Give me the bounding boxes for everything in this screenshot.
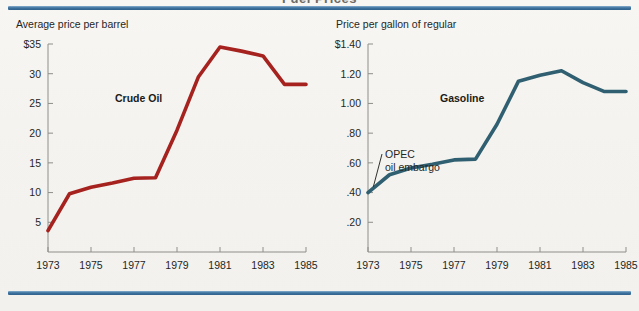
crude-oil-ytick-label: 25 — [29, 97, 41, 109]
crude-oil-ytick-label: 30 — [29, 68, 41, 80]
opec-annotation-line1: OPEC — [385, 148, 415, 160]
crude-oil-axis-title: Average price per barrel — [16, 18, 128, 30]
crude-oil-ytick-label: $35 — [23, 38, 41, 50]
opec-annotation-line2: oil embargo — [385, 161, 440, 173]
gasoline-axis-title: Price per gallon of regular — [336, 18, 456, 30]
crude-oil-xtick-label: 1983 — [251, 259, 275, 271]
gasoline-ytick-label: 1.00 — [341, 97, 362, 109]
gasoline-xtick-label: 1977 — [442, 259, 466, 271]
gasoline-xtick-label: 1983 — [571, 259, 595, 271]
gasoline-data-line — [368, 71, 626, 193]
crude-oil-xtick-label: 1979 — [165, 259, 189, 271]
crude-oil-xtick-label: 1981 — [208, 259, 232, 271]
gasoline-svg: $1.401.201.00.80.60.40.20 19731975197719… — [330, 34, 630, 286]
crude-oil-xtick-label: 1973 — [36, 259, 60, 271]
crude-oil-series-label: Crude Oil — [115, 92, 162, 104]
gasoline-ytick-label: .20 — [346, 216, 361, 228]
gasoline-xtick-label: 1979 — [485, 259, 509, 271]
gasoline-ytick-label: 1.20 — [341, 68, 362, 80]
crude-oil-data-line — [48, 47, 306, 231]
crude-oil-xtick-label: 1985 — [294, 259, 318, 271]
crude-oil-ytick-label: 10 — [29, 186, 41, 198]
gasoline-xtick-label: 1973 — [356, 259, 380, 271]
crude-oil-ytick-label: 20 — [29, 127, 41, 139]
top-divider-rule — [8, 6, 631, 10]
gasoline-ytick-label: .40 — [346, 186, 361, 198]
gasoline-plot-area: $1.401.201.00.80.60.40.20 19731975197719… — [330, 34, 630, 286]
crude-oil-svg: $3530252015105 1973197519771979198119831… — [10, 34, 310, 286]
chart-page: Fuel Prices Average price per barrel $35… — [0, 0, 639, 311]
crude-oil-xtick-label: 1977 — [122, 259, 146, 271]
gasoline-xtick-label: 1985 — [614, 259, 638, 271]
chart-panel-crude-oil: Average price per barrel $3530252015105 … — [10, 18, 310, 286]
gasoline-ytick-label: .80 — [346, 127, 361, 139]
clipped-page-title: Fuel Prices — [0, 0, 639, 3]
gasoline-ytick-label: $1.40 — [335, 38, 361, 50]
crude-oil-ytick-label: 15 — [29, 157, 41, 169]
gasoline-ytick-label: .60 — [346, 157, 361, 169]
gasoline-xtick-label: 1975 — [399, 259, 423, 271]
chart-panel-gasoline: Price per gallon of regular $1.401.201.0… — [330, 18, 630, 286]
gasoline-series-label: Gasoline — [440, 92, 485, 104]
crude-oil-plot-area: $3530252015105 1973197519771979198119831… — [10, 34, 310, 286]
bottom-divider-rule — [8, 291, 631, 295]
gasoline-xtick-label: 1981 — [528, 259, 552, 271]
crude-oil-ytick-label: 5 — [35, 216, 41, 228]
crude-oil-xtick-label: 1975 — [79, 259, 103, 271]
